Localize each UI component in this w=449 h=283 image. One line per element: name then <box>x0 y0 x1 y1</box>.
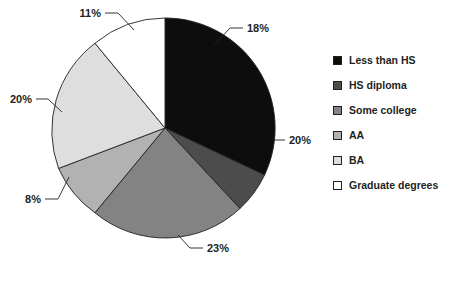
pie-chart-plot-area: 18% 20% 23% 8% 20% 11% <box>0 0 330 262</box>
callout-label-23: 23% <box>207 242 229 254</box>
legend-swatch-icon <box>333 81 342 90</box>
legend-swatch-icon <box>333 106 342 115</box>
legend-item-label: Less than HS <box>349 55 416 66</box>
legend-item-less-than-hs[interactable]: Less than HS <box>333 48 445 73</box>
pie-chart-svg: 18% 20% 23% 8% 20% 11% <box>0 0 330 262</box>
legend-item-some-college[interactable]: Some college <box>333 98 445 123</box>
legend-item-label: Some college <box>349 105 417 116</box>
callout-label-18: 18% <box>247 22 269 34</box>
figure-caption-strip <box>0 266 330 283</box>
legend-item-graduate-degrees[interactable]: Graduate degrees <box>333 173 445 198</box>
callout-label-20-ba: 20% <box>10 93 32 105</box>
legend-item-label: AA <box>349 130 364 141</box>
chart-legend: Less than HS HS diploma Some college AA … <box>333 48 445 198</box>
legend-item-hs-diploma[interactable]: HS diploma <box>333 73 445 98</box>
legend-item-ba[interactable]: BA <box>333 148 445 173</box>
callout-label-11: 11% <box>80 7 102 19</box>
legend-swatch-icon <box>333 181 342 190</box>
legend-swatch-icon <box>333 156 342 165</box>
pie-chart-figure: 18% 20% 23% 8% 20% 11% Less than HS HS d… <box>0 0 449 283</box>
legend-swatch-icon <box>333 56 342 65</box>
callout-label-20-hs: 20% <box>289 134 311 146</box>
legend-item-label: BA <box>349 155 364 166</box>
callout-label-8: 8% <box>25 193 41 205</box>
legend-item-label: Graduate degrees <box>349 180 438 191</box>
legend-swatch-icon <box>333 131 342 140</box>
legend-item-aa[interactable]: AA <box>333 123 445 148</box>
legend-item-label: HS diploma <box>349 80 407 91</box>
